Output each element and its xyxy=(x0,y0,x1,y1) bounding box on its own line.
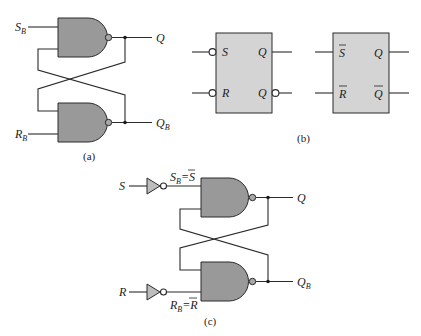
input-label-r: R xyxy=(118,285,127,299)
inversion-bubble xyxy=(105,119,111,125)
block1-r-label: R xyxy=(221,86,230,100)
output-bubble xyxy=(272,90,279,97)
sb-equals-sbar-label: SB=S xyxy=(170,170,195,186)
inversion-bubble xyxy=(105,34,111,40)
block2-qbar-label: Q xyxy=(374,87,383,101)
output-label-q: Q xyxy=(156,31,165,45)
inverter-top xyxy=(147,178,160,194)
nand-gate-bottom xyxy=(201,262,249,301)
inverter-bubble xyxy=(161,289,167,295)
caption-c: (c) xyxy=(204,315,217,328)
input-label-sb: SB xyxy=(15,20,26,36)
inversion-bubble xyxy=(249,278,255,284)
latch-diagram: SB RB Q QB (a) S R Q Q S R Q Q (b) xyxy=(0,0,421,336)
block2-sbar-label: S xyxy=(339,46,345,60)
block2-rbar-label: R xyxy=(338,87,347,101)
caption-a: (a) xyxy=(83,150,96,163)
nand-gate-top xyxy=(201,178,249,217)
block1-s-label: S xyxy=(222,45,228,59)
block2-q-label: Q xyxy=(374,46,383,60)
nand-gate-bottom xyxy=(58,103,108,142)
output-label-q: Q xyxy=(297,191,306,205)
block1-qn-label: Q xyxy=(258,86,267,100)
output-label-qb: QB xyxy=(297,275,311,291)
caption-b: (b) xyxy=(297,132,310,145)
block1-q-label: Q xyxy=(258,45,267,59)
inverter-bottom xyxy=(147,284,160,300)
part-c-latch-with-inverters: S R SB=S RB=R Q QB (c) xyxy=(118,170,311,328)
input-label-rb: RB xyxy=(14,127,27,143)
output-label-qb: QB xyxy=(156,116,170,132)
active-low-bubble xyxy=(209,90,216,97)
nand-gate-top xyxy=(58,18,108,57)
inversion-bubble xyxy=(249,194,255,200)
input-label-s: S xyxy=(119,179,125,193)
rb-equals-rbar-label: RB=R xyxy=(169,298,198,314)
inverter-bubble xyxy=(161,183,167,189)
active-low-bubble xyxy=(209,49,216,56)
part-a-nand-latch: SB RB Q QB (a) xyxy=(14,18,170,163)
part-b-block-symbols: S R Q Q S R Q Q (b) xyxy=(192,33,409,145)
